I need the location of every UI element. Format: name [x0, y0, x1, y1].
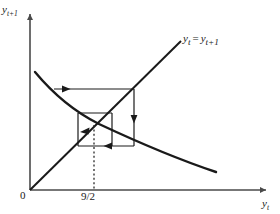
diag-label-equals: =: [190, 32, 200, 44]
x-axis-label-sub: t: [267, 203, 269, 212]
y-axis-label-sub: t+1: [7, 9, 18, 18]
arrow-outer-right-icon: [131, 115, 138, 124]
arrow-outer-bottom-icon: [104, 143, 113, 150]
diag-label-yt1-sub: t+1: [206, 37, 219, 47]
y-axis-label: yt+1: [2, 4, 18, 18]
forty-five-degree-line: [30, 41, 181, 190]
arrow-outer-top-icon: [62, 86, 71, 93]
plot-canvas: [0, 0, 280, 214]
arrow-inner-diagonal-icon: [80, 128, 90, 135]
forty-five-degree-line-label: yt=yt+1: [183, 33, 219, 47]
x-axis-label: yt: [262, 198, 269, 212]
cobweb-diagram-figure: yt+1 yt 0 9/2 yt=yt+1: [0, 0, 280, 214]
x-tick-label: 9/2: [81, 191, 95, 202]
origin-label: 0: [20, 190, 26, 201]
